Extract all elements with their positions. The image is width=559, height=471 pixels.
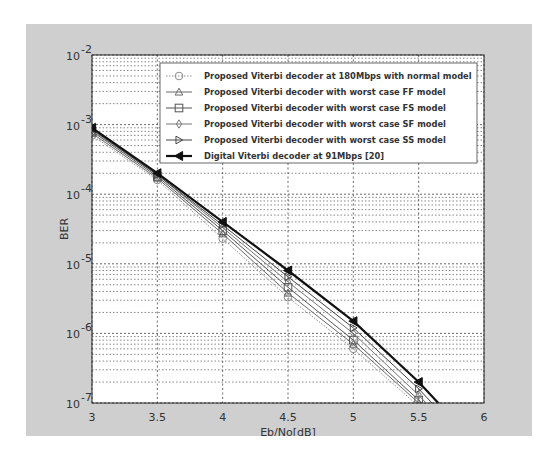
x-axis-label: Eb/No[dB] <box>260 426 316 436</box>
x-tick-label: 4.5 <box>279 411 297 424</box>
y-tick-label: 10 <box>66 120 80 133</box>
y-tick-label: 10 <box>66 189 80 202</box>
y-tick-exponent: -3 <box>81 113 92 126</box>
y-tick-label: 10 <box>66 259 80 272</box>
legend-label: Proposed Viterbi decoder with worst case… <box>204 119 446 129</box>
y-tick-exponent: -5 <box>81 252 92 265</box>
legend-item: Proposed Viterbi decoder at 180Mbps with… <box>166 71 472 81</box>
data-marker <box>415 402 423 410</box>
y-tick-exponent: -2 <box>81 43 92 56</box>
y-axis-label: BER <box>58 218 71 240</box>
y-tick-label: 10 <box>66 50 80 63</box>
x-tick-label: 5.5 <box>410 411 428 424</box>
y-tick-label: 10 <box>66 328 80 341</box>
legend-label: Digital Viterbi decoder at 91Mbps [20] <box>204 151 384 161</box>
x-tick-label: 3 <box>89 411 96 424</box>
x-tick-label: 6 <box>481 411 488 424</box>
legend-item: Proposed Viterbi decoder with worst case… <box>166 103 446 113</box>
x-tick-label: 5 <box>350 411 357 424</box>
y-tick-label: 10 <box>66 398 80 411</box>
x-tick-label: 3.5 <box>149 411 167 424</box>
legend: Proposed Viterbi decoder at 180Mbps with… <box>160 63 477 163</box>
legend-item: Proposed Viterbi decoder with worst case… <box>166 119 446 129</box>
legend-label: Proposed Viterbi decoder with worst case… <box>204 87 446 97</box>
y-tick-exponent: -7 <box>81 391 92 404</box>
legend-item: Proposed Viterbi decoder with worst case… <box>166 87 446 97</box>
x-tick-label: 4 <box>219 411 226 424</box>
y-tick-exponent: -6 <box>81 321 92 334</box>
ber-chart: 33.544.555.56 10-710-610-510-410-310-2 E… <box>26 24 532 436</box>
legend-label: Proposed Viterbi decoder with worst case… <box>204 103 446 113</box>
figure-background: 33.544.555.56 10-710-610-510-410-310-2 E… <box>26 24 532 436</box>
legend-label: Proposed Viterbi decoder with worst case… <box>204 135 446 145</box>
x-axis-ticks: 33.544.555.56 <box>89 411 488 424</box>
legend-label: Proposed Viterbi decoder at 180Mbps with… <box>204 71 472 81</box>
legend-item: Proposed Viterbi decoder with worst case… <box>166 135 446 145</box>
y-tick-exponent: -4 <box>81 182 92 195</box>
